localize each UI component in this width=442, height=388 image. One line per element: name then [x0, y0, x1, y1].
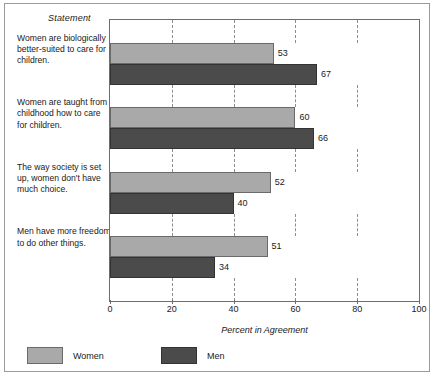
- bar-value-label: 34: [219, 257, 229, 278]
- legend-swatch-men: [161, 347, 197, 364]
- gridline: [357, 85, 358, 108]
- gridline: [234, 214, 235, 237]
- gridline: [172, 149, 173, 172]
- plot-area: 5367606652405134: [109, 19, 420, 302]
- x-axis-label: Percent in Agreement: [109, 325, 420, 335]
- statement-label-0: Women are biologically better-suited to …: [17, 33, 112, 67]
- statement-label-3: Men have more freedom to do other things…: [17, 226, 112, 248]
- gridline: [357, 20, 358, 43]
- legend-item-women: Women: [27, 347, 104, 364]
- bar-men-1: [110, 128, 314, 149]
- gridline: [295, 149, 296, 172]
- gridline: [172, 214, 173, 237]
- gridline: [234, 149, 235, 172]
- bar-value-label: 51: [272, 236, 282, 257]
- gridline: [295, 85, 296, 108]
- x-tick-label: 80: [352, 304, 362, 314]
- statement-column-header: Statement: [48, 13, 91, 23]
- x-tick-label: 100: [411, 304, 426, 314]
- gridline: [234, 20, 235, 43]
- gridline: [295, 214, 296, 237]
- plot-inner: 5367606652405134: [110, 20, 419, 301]
- gridline: [172, 20, 173, 43]
- bar-value-label: 53: [278, 43, 288, 64]
- gridline: [234, 278, 235, 301]
- legend-swatch-women: [27, 347, 63, 364]
- gridline: [357, 278, 358, 301]
- bar-value-label: 66: [318, 128, 328, 149]
- x-tick-label: 60: [290, 304, 300, 314]
- bar-value-label: 40: [238, 193, 248, 214]
- bar-men-2: [110, 193, 234, 214]
- bar-women-2: [110, 172, 271, 193]
- statement-label-1: Women are taught from childhood how to c…: [17, 97, 112, 131]
- bar-men-0: [110, 64, 317, 85]
- gridline: [357, 149, 358, 172]
- bar-men-3: [110, 257, 215, 278]
- gridline: [234, 85, 235, 108]
- gridline: [172, 278, 173, 301]
- legend-label: Women: [73, 351, 104, 361]
- gridline: [295, 278, 296, 301]
- gridline: [172, 85, 173, 108]
- statement-label-2: The way society is set up, women don't h…: [17, 162, 112, 196]
- bar-women-3: [110, 236, 268, 257]
- x-tick-label: 20: [167, 304, 177, 314]
- gridline: [357, 214, 358, 237]
- bar-women-0: [110, 43, 274, 64]
- bar-value-label: 60: [299, 107, 309, 128]
- x-axis-ticks: 020406080100: [109, 304, 420, 318]
- x-tick-label: 0: [107, 304, 112, 314]
- chart-figure: Statement Women are biologically better-…: [0, 0, 442, 388]
- x-tick-label: 40: [229, 304, 239, 314]
- legend-label: Men: [207, 351, 225, 361]
- bar-women-1: [110, 107, 295, 128]
- bar-value-label: 67: [321, 64, 331, 85]
- gridline: [295, 20, 296, 43]
- legend-item-men: Men: [161, 347, 225, 364]
- bar-value-label: 52: [275, 172, 285, 193]
